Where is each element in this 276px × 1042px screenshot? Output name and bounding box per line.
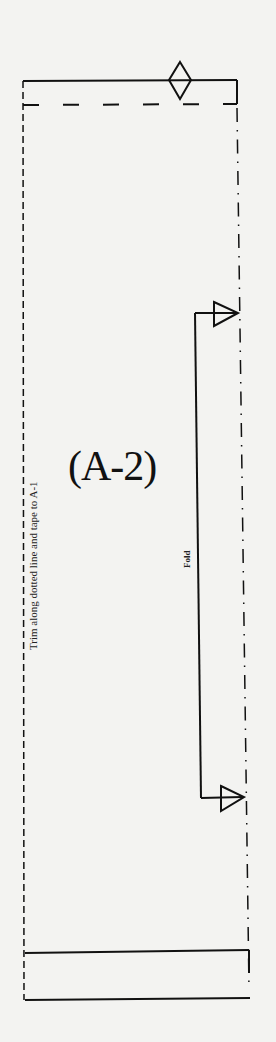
trim-instruction: Trim along dotted line and tape to A-1 xyxy=(27,481,39,650)
fold-arrow-bottom-icon xyxy=(221,786,244,811)
pattern-lines xyxy=(0,0,276,1042)
fold-label: Fold xyxy=(182,550,192,568)
piece-label: (A-2) xyxy=(68,442,156,490)
